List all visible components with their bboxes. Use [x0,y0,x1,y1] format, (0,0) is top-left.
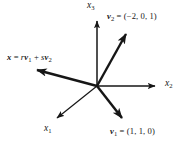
vector-v2-line [97,34,126,86]
axis-label-x2: x2 [165,79,173,89]
vector-label-v1: v1 = (1, 1, 0) [110,127,155,136]
vector-label-v2-components: (−2, 0, 1) [124,11,157,21]
axis-label-x3: x3 [87,1,95,11]
axis-label-x3-sub: 3 [91,4,94,11]
vector-group [37,34,126,118]
vector-label-v1-components: (1, 1, 0) [127,126,155,136]
vector-label-x-lhs: x [7,52,11,62]
vector-label-v2-equals: = [117,11,122,21]
vector-x-line [37,70,97,86]
vector-diagram-canvas [0,0,187,143]
axis-label-x1: x1 [44,124,52,134]
vector-label-v1-equals: = [120,126,125,136]
vector-label-x: x = rv1 + sv2 [7,53,52,62]
vector-label-x-plus: + [34,52,39,62]
vector-label-x-vec1-sub: 1 [28,56,31,63]
vector-v1-line [97,86,122,118]
vector-diagram-figure: x3 x2 x1 v2 = (−2, 0, 1) v1 = (1, 1, 0) … [0,0,187,143]
vector-label-x-equals: = [14,52,19,62]
axis-x1-line [57,86,97,118]
vector-label-v2: v2 = (−2, 0, 1) [107,12,157,21]
vector-label-v1-sub: 1 [114,130,117,137]
axis-label-x1-sub: 1 [48,127,51,134]
axis-label-x2-sub: 2 [169,82,172,89]
vector-label-v2-sub: 2 [111,15,114,22]
vector-label-x-vec2-sub: 2 [48,56,51,63]
